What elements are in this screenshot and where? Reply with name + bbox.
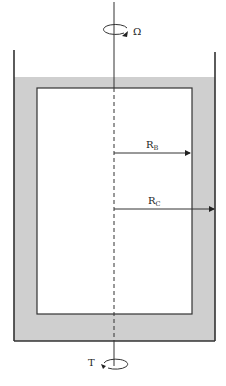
angular-velocity-arrow-icon	[104, 24, 128, 37]
torque-label: T	[88, 357, 95, 368]
omega-label: Ω	[133, 26, 141, 37]
viscometer-diagram: Ω T RB RC	[0, 0, 226, 386]
